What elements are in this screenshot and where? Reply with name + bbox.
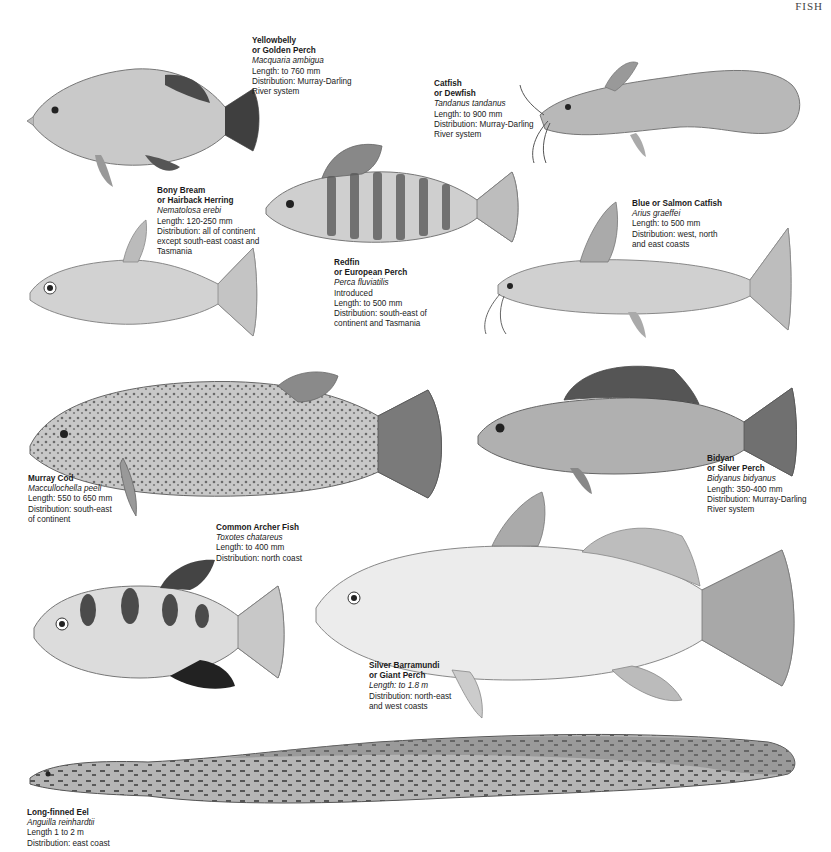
species-distribution: Distribution: Murray-Darling: [707, 495, 807, 505]
scientific-name: Macquaria ambigua: [252, 56, 352, 66]
label-blue-catfish: Blue or Salmon Catfish Arius graeffei Le…: [632, 199, 722, 250]
species-distribution: Distribution: north coast: [216, 554, 302, 564]
species-name: Catfish: [434, 79, 534, 89]
species-length: Length: to 500 mm: [632, 219, 722, 229]
species-distribution: Distribution: all of continent: [157, 227, 259, 237]
label-redfin: Redfin or European Perch Perca fluviatil…: [334, 258, 427, 329]
species-distribution: Distribution: south-east of: [334, 309, 427, 319]
species-distribution: Distribution: Murray-Darling: [252, 77, 352, 87]
scientific-name: Tandanus tandanus: [434, 99, 534, 109]
species-name: Long-finned Eel: [27, 808, 110, 818]
archer-fish-illustration: [30, 558, 290, 708]
label-bidyan: Bidyan or Silver Perch Bidyanus bidyanus…: [707, 454, 807, 515]
label-barramundi: Silver Barramundi or Giant Perch Length:…: [369, 661, 451, 712]
species-note: Introduced: [334, 289, 427, 299]
label-eel: Long-finned Eel Anguilla reinhardtii Len…: [27, 808, 110, 849]
species-distribution: River system: [434, 130, 534, 140]
species-length: Length: to 1.8 m: [369, 681, 451, 691]
label-yellowbelly: Yellowbelly or Golden Perch Macquaria am…: [252, 36, 352, 97]
species-length: Length: 120-250 mm: [157, 217, 259, 227]
species-name: Bony Bream: [157, 186, 259, 196]
species-name: or Golden Perch: [252, 46, 352, 56]
species-name: or Dewfish: [434, 89, 534, 99]
page-header: FISH: [795, 0, 823, 12]
species-name: or European Perch: [334, 268, 427, 278]
scientific-name: Nematolosa erebi: [157, 206, 259, 216]
species-distribution: Distribution: west, north: [632, 230, 722, 240]
label-bony-bream: Bony Bream or Hairback Herring Nematolos…: [157, 186, 259, 257]
species-name: or Hairback Herring: [157, 196, 259, 206]
scientific-name: Arius graeffei: [632, 209, 722, 219]
species-distribution: Tasmania: [157, 247, 259, 257]
eel-illustration: [28, 728, 803, 818]
redfin-illustration: [262, 138, 524, 258]
species-distribution: River system: [707, 505, 807, 515]
yellowbelly-illustration: [25, 55, 265, 190]
label-catfish: Catfish or Dewfish Tandanus tandanus Len…: [434, 79, 534, 140]
species-distribution: Distribution: east coast: [27, 839, 110, 849]
species-length: Length: to 760 mm: [252, 67, 352, 77]
scientific-name: Maccullochella peeli: [28, 484, 112, 494]
species-name: Common Archer Fish: [216, 523, 302, 533]
species-distribution: Distribution: south-east: [28, 505, 112, 515]
label-murray-cod: Murray Cod Maccullochella peeli Length: …: [28, 474, 112, 525]
species-name: Silver Barramundi: [369, 661, 451, 671]
species-name: Bidyan: [707, 454, 807, 464]
species-name: Yellowbelly: [252, 36, 352, 46]
species-distribution: and east coasts: [632, 240, 722, 250]
scientific-name: Toxotes chatareus: [216, 533, 302, 543]
label-archer-fish: Common Archer Fish Toxotes chatareus Len…: [216, 523, 302, 564]
species-name: Redfin: [334, 258, 427, 268]
scientific-name: Bidyanus bidyanus: [707, 474, 807, 484]
species-distribution: River system: [252, 87, 352, 97]
scientific-name: Anguilla reinhardtii: [27, 818, 110, 828]
species-distribution: of continent: [28, 515, 112, 525]
species-name: or Giant Perch: [369, 671, 451, 681]
species-distribution: and west coasts: [369, 702, 451, 712]
species-distribution: continent and Tasmania: [334, 319, 427, 329]
catfish-illustration: [520, 55, 810, 165]
species-name: Murray Cod: [28, 474, 112, 484]
species-distribution: Distribution: Murray-Darling: [434, 120, 534, 130]
species-name: Blue or Salmon Catfish: [632, 199, 722, 209]
scientific-name: Perca fluviatilis: [334, 278, 427, 288]
species-length: Length: to 900 mm: [434, 110, 534, 120]
species-length: Length: to 500 mm: [334, 299, 427, 309]
species-distribution: Distribution: north-east: [369, 692, 451, 702]
species-length: Length 1 to 2 m: [27, 828, 110, 838]
species-length: Length: to 400 mm: [216, 543, 302, 553]
species-name: or Silver Perch: [707, 464, 807, 474]
species-distribution: except south-east coast and: [157, 237, 259, 247]
species-length: Length: 550 to 650 mm: [28, 494, 112, 504]
species-length: Length: 350-400 mm: [707, 485, 807, 495]
